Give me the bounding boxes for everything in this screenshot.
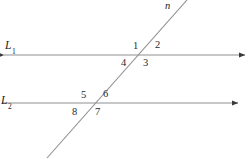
line-transversal-n [47, 0, 187, 158]
geometry-figure: L1 L2 n 12345678 [0, 0, 250, 159]
label-line-L2-subscript: 2 [8, 102, 12, 111]
label-line-L1-subscript: 1 [12, 47, 16, 56]
angle-label-5: 5 [81, 90, 86, 101]
angle-label-7: 7 [95, 107, 100, 118]
label-line-L1: L1 [5, 40, 15, 54]
label-line-L2-letter: L [1, 94, 7, 106]
angle-label-2: 2 [155, 40, 160, 51]
label-line-L1-letter: L [5, 39, 11, 51]
angle-label-3: 3 [143, 58, 148, 69]
label-line-L2: L2 [1, 95, 11, 109]
figure-canvas [0, 0, 250, 159]
angle-label-1: 1 [133, 41, 138, 52]
label-transversal-n: n [165, 1, 170, 12]
angle-label-4: 4 [121, 58, 126, 69]
angle-label-6: 6 [103, 89, 108, 100]
angle-label-8: 8 [72, 107, 77, 118]
